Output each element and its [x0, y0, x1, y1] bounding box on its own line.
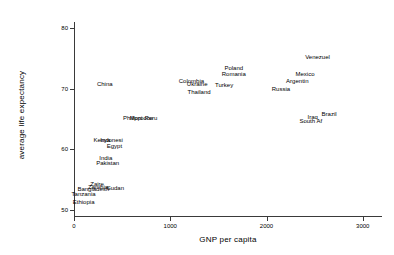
y-tick-mark — [70, 89, 74, 90]
y-axis-line — [74, 22, 75, 217]
data-point-label: Mexico — [295, 71, 314, 78]
x-tick-mark — [363, 217, 364, 221]
x-tick-label: 0 — [72, 223, 75, 230]
data-point-label: Ukraine — [187, 81, 208, 88]
data-point-label: Egypt — [107, 142, 122, 149]
data-point-label: Ethiopia — [73, 199, 95, 206]
y-tick-mark — [70, 210, 74, 211]
y-tick-label: 60 — [56, 146, 68, 153]
data-point-label: Turkey — [215, 82, 233, 89]
data-point-label: China — [97, 80, 113, 87]
x-tick-mark — [267, 217, 268, 221]
x-tick-label: 3000 — [356, 223, 369, 230]
x-axis-title: GNP per capita — [74, 235, 382, 245]
y-tick-mark — [70, 149, 74, 150]
x-tick-label: 2000 — [260, 223, 273, 230]
data-point-label: Argentin — [286, 77, 308, 84]
data-point-label: Poland — [224, 65, 243, 72]
x-tick-mark — [74, 217, 75, 221]
x-tick-label: 1000 — [164, 223, 177, 230]
data-point-label: Pakistan — [96, 160, 119, 167]
y-tick-label: 80 — [56, 25, 68, 32]
data-point-label: Peru — [145, 115, 158, 122]
data-point-label: Romania — [222, 71, 246, 78]
data-point-label: Zambia — [88, 183, 108, 190]
x-tick-mark — [170, 217, 171, 221]
scatter-plot-figure: 010002000300050607080 GNP per capita ave… — [0, 0, 394, 255]
y-tick-label: 70 — [56, 85, 68, 92]
data-point-label: Sudan — [107, 185, 124, 192]
data-point-label: Venezuel — [305, 54, 330, 61]
y-tick-label: 50 — [56, 206, 68, 213]
data-point-label: Brazil — [322, 111, 337, 118]
data-point-label: Russia — [272, 86, 290, 93]
data-point-label: Thailand — [188, 89, 211, 96]
x-axis-line — [74, 216, 382, 217]
y-axis-title: average life expectancy — [17, 40, 27, 190]
data-point-label: South Af — [299, 117, 322, 124]
y-tick-mark — [70, 28, 74, 29]
